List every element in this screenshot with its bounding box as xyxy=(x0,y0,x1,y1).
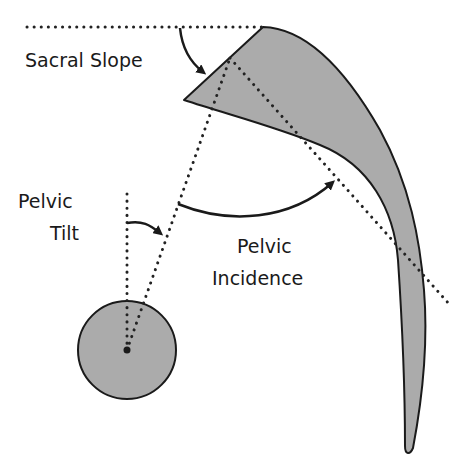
pelvic-incidence-label-line1: Pelvic xyxy=(237,235,292,257)
pelvic-incidence-label-line2: Incidence xyxy=(212,267,303,289)
spinopelvic-diagram: Sacral Slope Pelvic Tilt Pelvic Incidenc… xyxy=(0,0,463,464)
hip-center-dot xyxy=(124,347,131,354)
pelvic-tilt-label-line2: Tilt xyxy=(49,222,79,244)
sacral-slope-arrow xyxy=(180,28,203,72)
pelvic-tilt-arrow xyxy=(127,222,160,233)
pelvic-incidence-arrow xyxy=(178,183,332,216)
pelvic-tilt-label-line1: Pelvic xyxy=(18,190,73,212)
sacrum-shape xyxy=(184,27,426,453)
sacral-slope-label: Sacral Slope xyxy=(25,49,143,71)
